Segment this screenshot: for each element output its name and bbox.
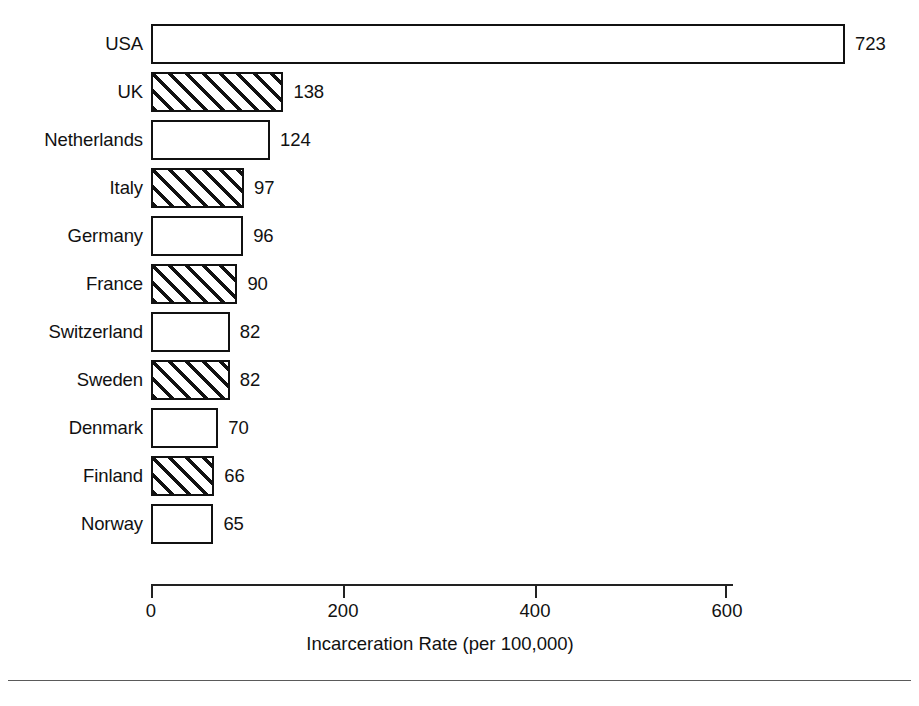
bar-row: Sweden82: [0, 356, 919, 404]
x-axis-tick: [343, 584, 345, 598]
bar-category-label: USA: [105, 33, 143, 55]
bar-row: Germany96: [0, 212, 919, 260]
incarceration-rate-bar-chart: USA723UK138Netherlands124Italy97Germany9…: [0, 0, 919, 706]
bar-category-label: UK: [118, 81, 144, 103]
bar-value-label: 82: [240, 321, 260, 343]
bar-denmark: [151, 408, 218, 448]
bar-category-label: Denmark: [69, 417, 143, 439]
bar-category-label: Italy: [110, 177, 143, 199]
x-axis: 0200400600: [0, 578, 919, 628]
x-axis-tick-label: 200: [328, 600, 359, 622]
footer-divider: [8, 680, 911, 681]
bar-value-label: 96: [253, 225, 273, 247]
bar-category-label: Switzerland: [48, 321, 143, 343]
bar-italy: [151, 168, 244, 208]
bar-value-label: 97: [254, 177, 274, 199]
bar-value-label: 66: [224, 465, 244, 487]
x-axis-line: [151, 584, 733, 586]
x-axis-tick: [151, 584, 153, 598]
x-axis-title: Incarceration Rate (per 100,000): [0, 633, 880, 655]
bar-category-label: Norway: [81, 513, 143, 535]
bar-switzerland: [151, 312, 230, 352]
bar-value-label: 723: [855, 33, 886, 55]
bar-row: Italy97: [0, 164, 919, 212]
bar-france: [151, 264, 237, 304]
bar-row: Norway65: [0, 500, 919, 548]
x-axis-tick-label: 400: [520, 600, 551, 622]
bar-row: Denmark70: [0, 404, 919, 452]
bar-row: UK138: [0, 68, 919, 116]
x-axis-tick-label: 0: [146, 600, 156, 622]
bar-category-label: France: [86, 273, 143, 295]
bar-norway: [151, 504, 213, 544]
bar-value-label: 65: [223, 513, 243, 535]
bar-category-label: Finland: [83, 465, 143, 487]
bar-row: Switzerland82: [0, 308, 919, 356]
x-axis-tick: [725, 584, 727, 598]
bar-germany: [151, 216, 243, 256]
bar-value-label: 82: [240, 369, 260, 391]
bar-category-label: Germany: [68, 225, 143, 247]
bar-row: USA723: [0, 20, 919, 68]
bar-category-label: Netherlands: [44, 129, 143, 151]
footer-caption: [60, 694, 660, 706]
bar-value-label: 138: [293, 81, 324, 103]
bar-uk: [151, 72, 283, 112]
plot-area: USA723UK138Netherlands124Italy97Germany9…: [0, 0, 919, 575]
bar-value-label: 90: [247, 273, 267, 295]
x-axis-tick-label: 600: [712, 600, 743, 622]
bar-sweden: [151, 360, 230, 400]
bar-row: Netherlands124: [0, 116, 919, 164]
bar-value-label: 124: [280, 129, 311, 151]
bar-row: France90: [0, 260, 919, 308]
x-axis-tick: [535, 584, 537, 598]
bar-category-label: Sweden: [77, 369, 143, 391]
bar-finland: [151, 456, 214, 496]
bar-row: Finland66: [0, 452, 919, 500]
bar-usa: [151, 24, 845, 64]
bar-value-label: 70: [228, 417, 248, 439]
bar-netherlands: [151, 120, 270, 160]
